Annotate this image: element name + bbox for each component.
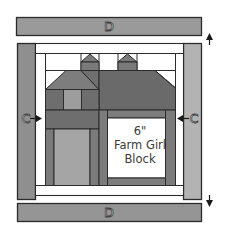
label-left-c: C xyxy=(19,112,33,125)
barn-post-left xyxy=(99,110,108,186)
chimney-left-stack xyxy=(81,62,99,71)
block-name-label: Farm Girl xyxy=(108,138,172,152)
window-left xyxy=(64,90,82,111)
label-top-d: D xyxy=(101,20,117,33)
chimney-right-stack xyxy=(118,62,137,71)
label-right-c: C xyxy=(187,112,201,125)
door-left xyxy=(54,129,90,186)
door-frame-left-r xyxy=(90,129,99,186)
block-type-label: Block xyxy=(108,152,172,166)
block-caption: 6" Farm Girl Block xyxy=(108,124,172,166)
arrow-down-icon xyxy=(206,200,213,207)
barn-footer-right xyxy=(108,178,166,186)
arrow-up-icon xyxy=(206,33,213,40)
quilt-block-diagram: D D C C 6" Farm Girl Block xyxy=(0,0,225,230)
door-header-left xyxy=(46,110,100,129)
wall-left-b xyxy=(82,90,100,111)
label-bottom-d: D xyxy=(101,206,117,219)
door-frame-left-l xyxy=(46,129,55,186)
wall-left-a xyxy=(46,90,64,111)
block-size-label: 6" xyxy=(108,124,172,138)
barn-header-right xyxy=(108,110,166,118)
